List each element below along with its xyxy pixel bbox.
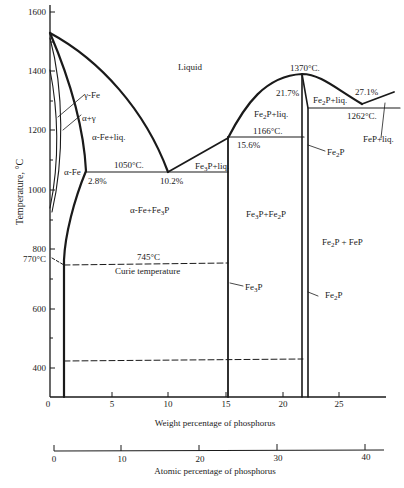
x-tick-0: 0	[46, 399, 51, 409]
label-fe3p-fe2p: Fe3P+Fe2P	[246, 209, 286, 221]
y-tick-1200: 1200	[28, 125, 47, 135]
y-tick-600: 600	[33, 304, 47, 314]
x-tick-15: 15	[222, 399, 232, 409]
label-alpha-gamma: α+γ	[82, 113, 96, 123]
label-27-1pct: 27.1%	[355, 87, 379, 97]
y-axis-title: Temperature, °C	[14, 159, 25, 225]
label-curie: Curie temperature	[115, 266, 180, 276]
label-alpha-fe: α-Fe	[64, 167, 81, 177]
phase-boundaries	[50, 33, 400, 397]
x2-tick-10: 10	[118, 454, 128, 464]
x-tick-5: 5	[110, 399, 115, 409]
x2-tick-20: 20	[196, 454, 206, 464]
label-10-2pct: 10.2%	[160, 176, 184, 186]
x2-tick-40: 40	[362, 452, 372, 462]
x-tick-10: 10	[164, 399, 174, 409]
y-tick-800: 800	[33, 244, 47, 254]
y-tick-1000: 1000	[28, 185, 47, 195]
label-21-7pct: 21.7%	[276, 88, 300, 98]
label-770: 770°C	[23, 254, 46, 264]
label-fe2p-liq-right: Fe2P+liq.	[313, 95, 347, 107]
x2-tick-30: 30	[274, 453, 284, 463]
y-tick-1600: 1600	[28, 7, 47, 17]
y-tick-400: 400	[33, 363, 47, 373]
label-fe2p-liq: Fe2P+liq.	[254, 109, 288, 121]
label-1262: 1262°C.	[347, 111, 377, 121]
label-2-8pct: 2.8%	[88, 176, 107, 186]
x2-axis-title: Atomic percentage of phosphorus	[154, 466, 276, 476]
phase-arrow-labels: Fe3P Fe2P Fe2P	[245, 147, 345, 302]
label-alpha-fe3p: α-Fe+Fe3P	[130, 205, 169, 217]
label-fe3p-phase: Fe3P	[245, 282, 263, 294]
phase-diagram: 1600 1400 1200 1000 800 600 400 Temperat…	[0, 0, 404, 488]
x-tick-25: 25	[335, 399, 345, 409]
y-axis-labels: 1600 1400 1200 1000 800 600 400 Temperat…	[14, 7, 47, 373]
x-tick-20: 20	[279, 399, 289, 409]
label-fe2p-phase-bottom: Fe2P	[325, 290, 343, 302]
label-gamma-fe: γ-Fe	[83, 90, 100, 100]
label-fe2p-fep: Fe2P + FeP	[322, 237, 363, 249]
label-liquid: Liquid	[178, 62, 202, 72]
label-fe2p-phase-top: Fe2P	[327, 147, 345, 159]
axes	[50, 5, 386, 451]
label-1166: 1166°C.	[253, 126, 283, 136]
label-fe3p-liq: Fe3P+liq.	[195, 161, 229, 173]
x-axis-title: Weight percentage of phosphorus	[155, 418, 276, 428]
x-axis-labels: 0 5 10 15 20 25 Weight percentage of pho…	[46, 399, 371, 476]
label-1370: 1370°C.	[290, 63, 320, 73]
x2-tick-0: 0	[52, 454, 57, 464]
label-15-6pct: 15.6%	[237, 140, 261, 150]
y-tick-1400: 1400	[28, 66, 47, 76]
label-745: 745°C	[137, 252, 160, 262]
label-1050: 1050°C.	[114, 160, 144, 170]
label-alpha-fe-liq: α-Fe+liq.	[92, 132, 126, 142]
label-fep-liq: FeP+liq.	[363, 134, 394, 144]
